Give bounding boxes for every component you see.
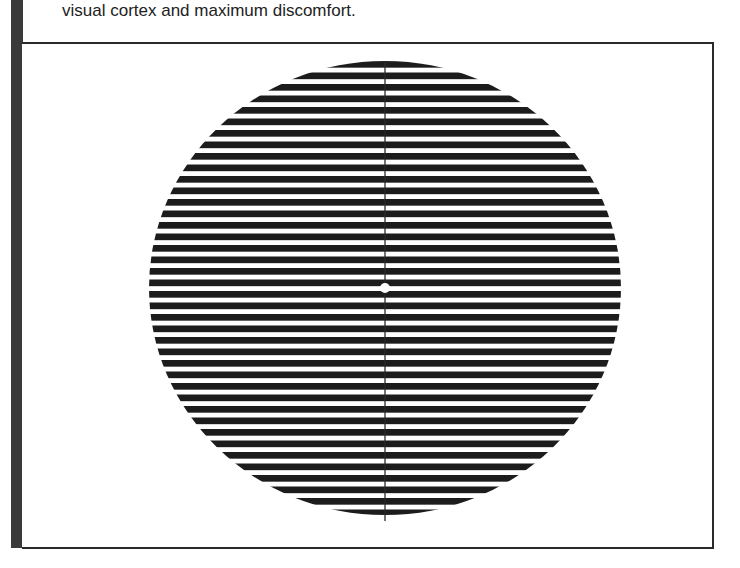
- fixation-point: [380, 283, 390, 293]
- striped-circle-figure: [0, 0, 740, 568]
